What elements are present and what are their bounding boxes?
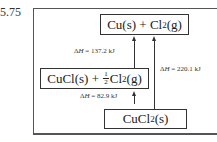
fraction-one-half: 12	[103, 71, 109, 86]
arrow-step2-line	[134, 95, 135, 104]
species-box-cu-cl2: Cu(s) + Cl2(g)	[100, 14, 189, 35]
species-mid-suffix: (g)	[127, 71, 142, 87]
arrow-step1-line	[134, 40, 135, 68]
problem-number: 5.75	[0, 5, 21, 20]
species-box-cucl2: CuCl2(s)	[104, 109, 187, 129]
frame-top-border	[33, 8, 217, 9]
arrow-overall-line	[154, 40, 155, 109]
species-top-main: Cu(s) + Cl	[107, 17, 162, 33]
enthalpy-label-step2: ΔH = 82.9 kJ	[80, 92, 117, 100]
species-mid-prefix: CuCl(s) +	[47, 71, 102, 87]
species-mid-main: Cl	[110, 71, 122, 87]
frame-bottom-border	[33, 134, 217, 135]
species-box-cucl-half-cl2: CuCl(s) + 12Cl2(g)	[40, 68, 149, 89]
species-bottom-suffix: (s)	[155, 111, 169, 127]
species-top-suffix: (g)	[167, 17, 182, 33]
enthalpy-label-step1: ΔH = 137.2 kJ	[74, 47, 115, 55]
species-bottom-main: CuCl	[123, 111, 150, 127]
enthalpy-label-overall: ΔH = 220.1 kJ	[160, 65, 201, 73]
